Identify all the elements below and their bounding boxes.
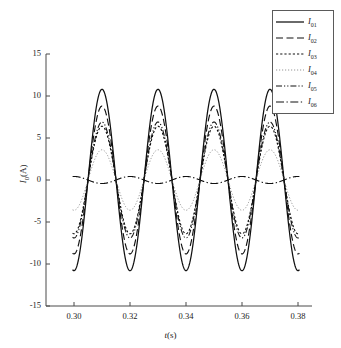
legend-line-sample bbox=[275, 80, 305, 92]
x-tick-label: 0.36 bbox=[228, 311, 256, 321]
curve-I03 bbox=[73, 126, 300, 234]
legend-line-sample bbox=[275, 96, 305, 108]
legend-item-I02: I02 bbox=[275, 30, 331, 46]
y-tick-label: -15 bbox=[16, 300, 41, 310]
legend-line-sample bbox=[275, 64, 305, 76]
legend-item-I05: I05 bbox=[275, 78, 331, 94]
y-tick-label: -5 bbox=[16, 216, 41, 226]
y-tick-label: -10 bbox=[16, 258, 41, 268]
curve-I05 bbox=[73, 122, 300, 238]
x-tick-label: 0.34 bbox=[172, 311, 200, 321]
legend-label: I06 bbox=[305, 96, 317, 108]
legend-label: I01 bbox=[305, 16, 317, 28]
legend-item-I06: I06 bbox=[275, 94, 331, 110]
chart-legend: I01I02I03I04I05I06 bbox=[272, 10, 334, 114]
data-curves bbox=[73, 89, 300, 270]
x-tick-label: 0.38 bbox=[284, 311, 312, 321]
curve-I04 bbox=[73, 150, 300, 210]
legend-label: I03 bbox=[305, 48, 317, 60]
legend-item-I03: I03 bbox=[275, 46, 331, 62]
legend-label: I04 bbox=[305, 64, 317, 76]
y-tick-label: 15 bbox=[16, 48, 41, 58]
x-axis-label: t(s) bbox=[0, 330, 341, 340]
x-tick-label: 0.32 bbox=[116, 311, 144, 321]
y-tick-label: 5 bbox=[16, 132, 41, 142]
curve-I06 bbox=[73, 176, 300, 183]
legend-line-sample bbox=[275, 16, 305, 28]
legend-line-sample bbox=[275, 48, 305, 60]
legend-item-I01: I01 bbox=[275, 14, 331, 30]
legend-item-I04: I04 bbox=[275, 62, 331, 78]
legend-label: I02 bbox=[305, 32, 317, 44]
legend-line-sample bbox=[275, 32, 305, 44]
y-tick-label: 0 bbox=[16, 174, 41, 184]
y-tick-label: 10 bbox=[16, 90, 41, 100]
figure-container: I0(A) t(s) I01I02I03I04I05I06 151050-5-1… bbox=[0, 0, 341, 348]
x-tick-label: 0.30 bbox=[60, 311, 88, 321]
legend-label: I05 bbox=[305, 80, 317, 92]
